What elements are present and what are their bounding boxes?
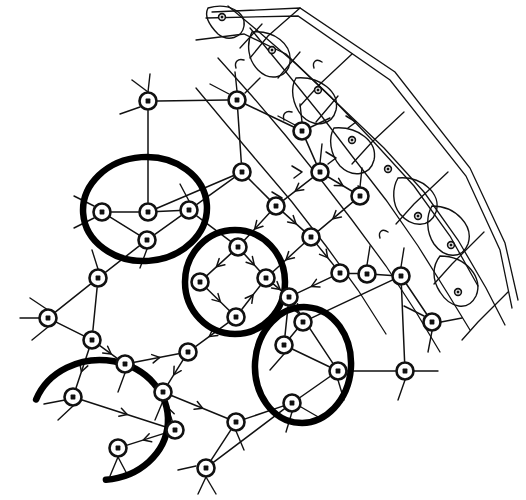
node-n33[interactable] [330,363,347,380]
node-core-dot [301,320,306,325]
mini-node-m4 [385,166,392,173]
node-core-dot [90,338,95,343]
node-n6[interactable] [94,204,111,221]
edge-n33-n34 [300,377,330,398]
edge-n6-n8 [110,217,139,235]
node-n24[interactable] [117,356,134,373]
edge-n3-n15 [306,140,316,163]
node-n35[interactable] [397,363,414,380]
node-n14[interactable] [303,229,320,246]
node-n16[interactable] [332,265,349,282]
node-n27[interactable] [65,389,82,406]
edge-n36-n33 [293,349,330,367]
mini-node-core-dot [417,215,420,218]
node-n23[interactable] [84,332,101,349]
figure-root [0,0,526,500]
node-core-dot [71,395,76,400]
edge-n18-n14 [318,202,352,231]
mini-node-core-dot [317,89,320,92]
node-core-dot [123,362,128,367]
node-n37[interactable] [359,266,376,283]
node-core-dot [161,390,166,395]
node-n17[interactable] [295,314,312,331]
node-n8[interactable] [139,232,156,249]
node-n15[interactable] [312,164,329,181]
mini-node-core-dot [457,291,460,294]
node-n32[interactable] [281,289,298,306]
node-n22[interactable] [40,310,57,327]
node-n11[interactable] [258,270,275,287]
node-n5[interactable] [140,204,157,221]
edge-n10-n12 [207,289,229,310]
mini-node-m5 [415,213,422,220]
node-core-dot [186,350,191,355]
node-n2[interactable] [229,92,246,109]
node-n1[interactable] [140,93,157,110]
node-core-dot [282,343,287,348]
node-n21[interactable] [90,270,107,287]
edge-n19-n20 [406,284,426,314]
node-core-dot [146,99,151,104]
node-n25[interactable] [155,384,172,401]
node-n26[interactable] [180,344,197,361]
edge-n2-n3 [246,104,293,127]
node-n12[interactable] [228,309,245,326]
mini-node-core-dot [351,139,354,142]
node-core-dot [234,315,239,320]
mini-node-m6 [448,242,455,249]
highlight-arc-g4[interactable] [36,360,168,480]
node-n28[interactable] [167,422,184,439]
edge-n9-n10 [207,254,231,276]
mini-node-m3 [349,137,356,144]
node-core-dot [290,401,295,406]
edge-n30-n31 [211,430,230,460]
node-core-dot [287,295,292,300]
node-core-dot [274,204,279,209]
node-core-dot [300,129,305,134]
node-n10[interactable] [192,274,209,291]
node-core-dot [234,420,239,425]
node-core-dot [100,210,105,215]
edge-n22-n23 [57,322,84,335]
edge-n23-n27 [76,349,89,388]
mini-node-m2 [315,87,322,94]
node-core-dot [338,271,343,276]
node-core-dot [264,276,269,281]
node-core-dot [430,320,435,325]
node-core-dot [187,208,192,213]
node-n7[interactable] [181,202,198,219]
node-core-dot [198,280,203,285]
edge-n27-n28 [82,400,166,427]
node-n19[interactable] [393,268,410,285]
node-n4[interactable] [234,164,251,181]
node-core-dot [145,238,150,243]
node-core-dot [236,245,241,250]
node-core-dot [116,446,121,451]
mini-node-m7 [455,289,462,296]
node-n30[interactable] [228,414,245,431]
node-core-dot [309,235,314,240]
node-n36[interactable] [276,337,293,354]
node-n34[interactable] [284,395,301,412]
node-n29[interactable] [110,440,127,457]
node-n13[interactable] [268,198,285,215]
mini-node-core-dot [271,49,274,52]
node-n18[interactable] [352,188,369,205]
mini-node-m8 [219,14,226,21]
node-core-dot [358,194,363,199]
node-core-dot [146,210,151,215]
edge-n21-n23 [93,288,97,331]
node-n31[interactable] [198,460,215,477]
mini-node-core-dot [387,168,390,171]
mini-node-m1 [269,47,276,54]
node-core-dot [365,272,370,277]
edge-n4-n13 [249,179,269,199]
node-n3[interactable] [294,123,311,140]
node-core-dot [318,170,323,175]
node-core-dot [336,369,341,374]
node-core-dot [46,316,51,321]
edge-n2-n4 [238,110,242,163]
node-n20[interactable] [424,314,441,331]
edge-n1-n2 [158,100,228,101]
node-n9[interactable] [230,239,247,256]
